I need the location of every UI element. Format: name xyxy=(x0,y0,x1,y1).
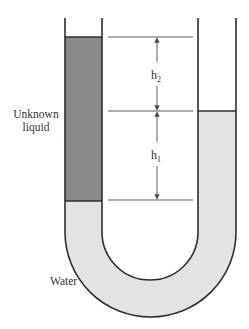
unknown-liquid-column xyxy=(65,37,102,201)
unknown-liquid-label-line2: liquid xyxy=(23,121,50,134)
unknown-liquid-label-line1: Unknown xyxy=(13,108,59,120)
u-tube-diagram: h2 h1 Unknown liquid Water xyxy=(0,0,249,329)
tube-inner-wall xyxy=(102,18,198,280)
water-label: Water xyxy=(50,275,77,287)
h1-label: h1 xyxy=(151,148,161,164)
h2-label: h2 xyxy=(151,68,161,84)
